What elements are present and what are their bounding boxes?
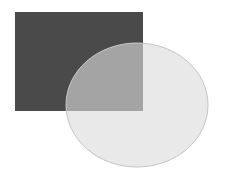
overlap-diagram bbox=[0, 0, 227, 179]
